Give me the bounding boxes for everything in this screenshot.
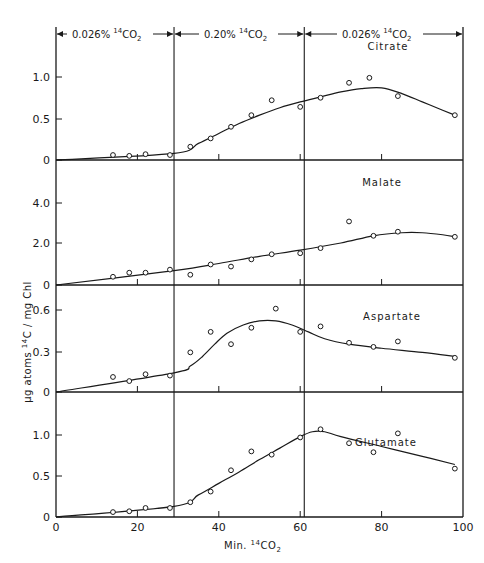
y-tick-label: 0 [43, 386, 50, 399]
data-point [249, 113, 254, 118]
data-point [208, 136, 213, 141]
data-point [395, 94, 400, 99]
data-point [188, 350, 193, 355]
y-tick-label: 2.0 [33, 237, 51, 250]
y-axis-title: µg atoms 14C / mg Chl [21, 281, 33, 403]
data-point [298, 104, 303, 109]
data-point [127, 153, 132, 158]
data-point [395, 339, 400, 344]
panel-malate: 02.04.0Malate [33, 177, 464, 292]
data-point [347, 219, 352, 224]
data-point [127, 270, 132, 275]
y-tick-label: 4.0 [33, 197, 51, 210]
y-tick-label: 0 [43, 511, 50, 524]
arrowhead-right-icon [167, 31, 173, 37]
panel-aspartate: 00.30.6Aspartate [33, 304, 464, 399]
data-point [318, 246, 323, 251]
data-point [298, 329, 303, 334]
arrowhead-right-icon [297, 31, 303, 37]
data-point [298, 435, 303, 440]
data-point [395, 431, 400, 436]
data-point [318, 427, 323, 432]
data-point [269, 452, 274, 457]
data-point [127, 379, 132, 384]
x-tick-label: 40 [212, 521, 226, 534]
data-point [371, 345, 376, 350]
chart-figure: 0.026% 14CO2 0.20% 14CO2 0.026% 14CO2 00… [0, 0, 484, 563]
data-point [143, 506, 148, 511]
y-tick-label: 0.5 [33, 113, 51, 126]
data-point [229, 264, 234, 269]
panel-title: Aspartate [363, 311, 421, 322]
y-tick-label: 0 [43, 154, 50, 167]
data-point [318, 95, 323, 100]
data-point [229, 124, 234, 129]
data-point [347, 80, 352, 85]
x-tick-label: 80 [375, 521, 389, 534]
period-2-label: 0.20% 14CO2 [204, 27, 267, 43]
arrowhead-right-icon [456, 31, 462, 37]
panel-title: Glutamate [355, 437, 417, 448]
data-point [249, 257, 254, 262]
panel-title: Malate [362, 177, 402, 188]
y-tick-label: 1.0 [33, 429, 51, 442]
data-point [371, 233, 376, 238]
data-point [452, 234, 457, 239]
data-point [168, 506, 173, 511]
data-point [229, 468, 234, 473]
data-point [208, 489, 213, 494]
fitted-curve [56, 87, 455, 160]
y-tick-label: 0 [43, 279, 50, 292]
data-point [111, 375, 116, 380]
panel-title: Citrate [368, 41, 409, 52]
data-point [143, 270, 148, 275]
data-point [188, 272, 193, 277]
data-point [347, 441, 352, 446]
arrowhead-left-icon [175, 31, 181, 37]
arrowhead-left-icon [305, 31, 311, 37]
data-point [208, 262, 213, 267]
x-tick-label: 100 [453, 521, 474, 534]
data-point [168, 267, 173, 272]
panel-glutamate: 00.51.0Glutamate [33, 427, 464, 524]
data-point [249, 325, 254, 330]
data-point [168, 153, 173, 158]
data-point [143, 152, 148, 157]
data-point [111, 274, 116, 279]
data-point [273, 306, 278, 311]
x-axis-title: Min. 14CO2 [224, 539, 281, 554]
fitted-curve [56, 320, 455, 392]
data-point [168, 373, 173, 378]
data-point [127, 509, 132, 514]
data-point [111, 153, 116, 158]
y-tick-label: 0.6 [33, 304, 51, 317]
data-point [318, 324, 323, 329]
y-tick-label: 0.3 [33, 346, 51, 359]
data-point [188, 144, 193, 149]
arrowhead-left-icon [57, 31, 63, 37]
data-point [371, 450, 376, 455]
panels: 00.51.0Citrate02.04.0Malate00.30.6Aspart… [33, 41, 474, 534]
data-point [269, 252, 274, 257]
x-tick-label: 20 [130, 521, 144, 534]
data-point [298, 251, 303, 256]
data-point [143, 372, 148, 377]
data-point [347, 340, 352, 345]
period-1-label: 0.026% 14CO2 [72, 27, 142, 43]
x-tick-label: 0 [53, 521, 60, 534]
data-point [249, 449, 254, 454]
data-point [452, 355, 457, 360]
data-point [188, 500, 193, 505]
chart-canvas: 0.026% 14CO2 0.20% 14CO2 0.026% 14CO2 00… [0, 0, 484, 563]
data-point [395, 229, 400, 234]
x-tick-label: 60 [293, 521, 307, 534]
data-point [269, 98, 274, 103]
data-point [111, 510, 116, 515]
period-annotations: 0.026% 14CO2 0.20% 14CO2 0.026% 14CO2 [72, 27, 412, 43]
y-tick-label: 1.0 [33, 71, 51, 84]
data-point [208, 329, 213, 334]
panel-citrate: 00.51.0Citrate [33, 41, 464, 167]
data-point [367, 75, 372, 80]
y-tick-label: 0.5 [33, 470, 51, 483]
data-point [452, 466, 457, 471]
